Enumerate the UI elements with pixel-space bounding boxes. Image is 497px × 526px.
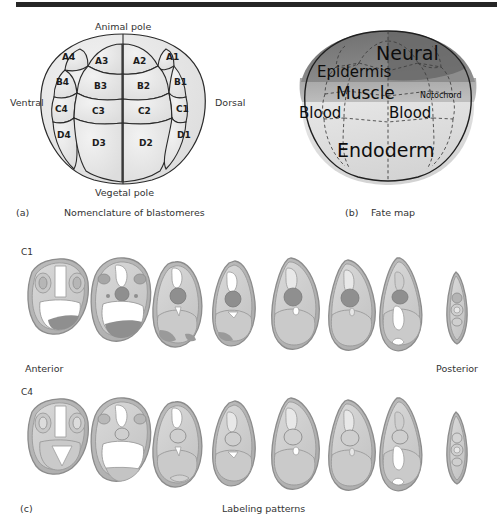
blastomere-a2: A2	[133, 57, 146, 66]
embryo-section-c1-8	[447, 272, 467, 344]
fate-region-neural: Neural	[376, 44, 439, 63]
blastomere-a1: A1	[166, 53, 179, 62]
fate-region-endoderm: Endoderm	[337, 141, 434, 160]
embryo-section-c1-3	[153, 262, 202, 347]
label-vegetal-pole: Vegetal pole	[95, 188, 154, 198]
panel-a-caption: Nomenclature of blastomeres	[64, 208, 205, 218]
embryo-section-c1-4	[213, 261, 256, 346]
embryo-section-c1-6	[329, 260, 376, 350]
blastomere-c4: C4	[55, 105, 68, 114]
embryo-section-c4-3	[153, 402, 202, 487]
blastomere-a3: A3	[95, 57, 108, 66]
fate-region-blood-left: Blood	[299, 106, 341, 121]
blastomere-b2: B2	[137, 82, 150, 91]
fate-region-blood-right: Blood	[389, 106, 431, 121]
embryo-section-c4-2	[91, 398, 151, 481]
label-animal-pole: Animal pole	[95, 22, 151, 32]
embryo-section-c4-8	[447, 412, 467, 484]
panel-a-letter: (a)	[16, 208, 29, 218]
row-label-c1: C1	[21, 248, 33, 257]
blastomere-b3: B3	[94, 82, 107, 91]
embryo-section-c4-1	[28, 399, 88, 474]
blastomere-d3: D3	[92, 139, 106, 148]
embryo-section-c4-7	[380, 398, 422, 491]
row-label-c4: C4	[21, 388, 33, 397]
embryo-section-c1-1	[28, 259, 88, 334]
panel-c-row-c1	[28, 258, 467, 351]
blastomere-c2: C2	[138, 107, 151, 116]
label-anterior: Anterior	[25, 364, 63, 374]
embryo-section-c4-4	[213, 401, 256, 486]
embryo-section-c1-5	[272, 258, 320, 349]
figure-canvas	[0, 0, 497, 526]
embryo-section-c4-6	[329, 400, 376, 490]
label-ventral: Ventral	[10, 98, 44, 108]
blastomere-b4: B4	[56, 78, 69, 87]
panel-c-caption: Labeling patterns	[222, 504, 305, 514]
blastomere-b1: B1	[174, 78, 187, 87]
blastomere-d1: D1	[177, 131, 191, 140]
embryo-section-c1-2	[91, 258, 151, 341]
blastomere-d2: D2	[139, 139, 153, 148]
blastomere-c3: C3	[92, 107, 105, 116]
blastomere-c1: C1	[176, 105, 189, 114]
panel-b-caption: Fate map	[371, 208, 415, 218]
panel-b-letter: (b)	[345, 208, 358, 218]
label-posterior: Posterior	[436, 364, 478, 374]
figure-root: Animal pole Vegetal pole Ventral Dorsal …	[0, 0, 497, 526]
embryo-section-c4-5	[272, 398, 320, 489]
fate-region-muscle: Muscle	[336, 85, 395, 102]
blastomere-a4: A4	[62, 53, 75, 62]
label-dorsal: Dorsal	[215, 98, 245, 108]
fate-region-notochord: Notochord	[420, 92, 462, 100]
panel-c-letter: (c)	[20, 504, 33, 514]
panel-c-row-c4	[28, 398, 467, 491]
embryo-section-c1-7	[380, 258, 422, 351]
fate-region-epidermis: Epidermis	[317, 65, 391, 80]
blastomere-d4: D4	[57, 131, 71, 140]
